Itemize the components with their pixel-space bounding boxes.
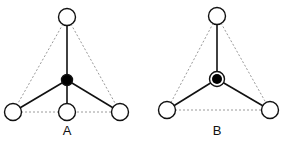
atom-left-a (5, 104, 22, 121)
figure-a (5, 9, 129, 121)
atom-center-a (62, 75, 73, 86)
atom-right-b (262, 102, 279, 119)
atom-top-a (59, 9, 76, 26)
figure-b (159, 8, 279, 119)
diagram-canvas (0, 0, 284, 143)
label-b: B (213, 123, 222, 138)
atom-right-a (112, 104, 129, 121)
atom-top-b (209, 8, 226, 25)
bonds-a (13, 17, 120, 112)
dashed-edges-b (167, 16, 270, 110)
label-a: A (63, 123, 72, 138)
bonds-b (167, 16, 270, 110)
atom-center-b (212, 74, 222, 84)
atoms-b (159, 8, 279, 119)
atom-mid-a (59, 104, 76, 121)
atom-left-b (159, 102, 176, 119)
